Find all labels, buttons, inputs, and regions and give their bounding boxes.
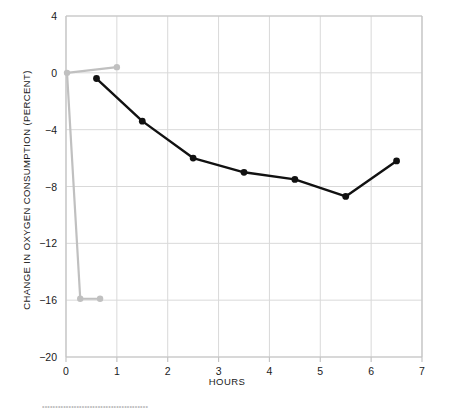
data-point-black-series: [342, 193, 349, 200]
chart-canvas: 01234567 40−4−8−12−16−20 HOURS CHANGE IN…: [0, 0, 453, 410]
y-tick-label: −12: [39, 237, 57, 249]
data-point-black-series: [291, 176, 298, 183]
chart-background: [0, 0, 453, 410]
data-point-gray-series: [77, 296, 83, 302]
oxygen-consumption-chart: 01234567 40−4−8−12−16−20 HOURS CHANGE IN…: [0, 0, 453, 410]
x-tick-label: 6: [368, 365, 374, 377]
x-axis-title: HOURS: [209, 376, 245, 387]
data-point-gray-series: [97, 296, 103, 302]
y-axis-title: CHANGE IN OXYGEN CONSUMPTION (PERCENT): [21, 70, 32, 310]
data-point-black-series: [241, 169, 248, 176]
y-tick-label: −20: [39, 351, 57, 363]
y-tick-label: 0: [51, 67, 57, 79]
x-tick-label: 5: [317, 365, 323, 377]
y-tick-label: −8: [45, 181, 57, 193]
y-tick-label: −4: [45, 124, 57, 136]
data-point-black-series: [190, 155, 197, 162]
x-tick-label: 2: [165, 365, 171, 377]
x-tick-label: 7: [419, 365, 425, 377]
x-tick-label: 0: [63, 365, 69, 377]
y-tick-label: −16: [39, 294, 57, 306]
x-tick-label: 4: [267, 365, 273, 377]
data-point-black-series: [393, 158, 400, 165]
data-point-black-series: [93, 75, 100, 82]
footnote-text: ••••••••••••••••••••••••••••••••••••••••: [42, 403, 302, 410]
data-point-black-series: [139, 118, 146, 125]
data-point-gray-series: [64, 70, 70, 76]
y-tick-label: 4: [51, 10, 57, 22]
data-point-gray-series: [114, 64, 120, 70]
x-tick-label: 1: [114, 365, 120, 377]
